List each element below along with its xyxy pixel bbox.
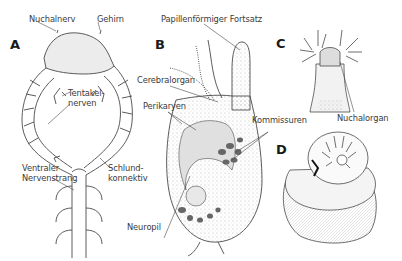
panel-label-b: B bbox=[155, 37, 165, 52]
figure-drawing bbox=[0, 0, 402, 261]
label-neuropil: Neuropil bbox=[127, 222, 161, 232]
label-perikaryen: Perikaryen bbox=[143, 101, 186, 111]
panel-label-a: A bbox=[10, 37, 20, 52]
label-ventraler-nervenstrang: Ventraler Nervenstrang bbox=[22, 163, 77, 183]
label-schlundkonnektiv: Schlund- konnektiv bbox=[108, 163, 148, 183]
label-tentakelnerven: Tentakel- nerven bbox=[68, 88, 104, 108]
panel-label-c: C bbox=[276, 36, 286, 51]
label-nuchalorgan: Nuchalorgan bbox=[337, 113, 389, 123]
label-gehirn: Gehirn bbox=[97, 14, 124, 24]
label-kommissuren: Kommissuren bbox=[252, 115, 307, 125]
label-nuchalnerv: Nuchalnerv bbox=[29, 14, 75, 24]
label-cerebralorgan: Cerebralorgan bbox=[137, 75, 195, 85]
nervous-system-figure: A B C D Nuchalnerv Gehirn Tentakel- nerv… bbox=[0, 0, 402, 261]
panel-d-drawing bbox=[283, 132, 376, 243]
panel-a-drawing bbox=[22, 30, 132, 258]
label-papillenfoermiger-fortsatz: Papillenförmiger Fortsatz bbox=[161, 14, 262, 24]
panel-label-d: D bbox=[276, 142, 287, 157]
panel-c-drawing bbox=[300, 30, 362, 112]
